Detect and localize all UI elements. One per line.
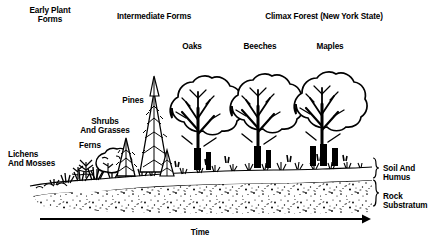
- plant-label-beeches: Beeches: [244, 42, 277, 51]
- strata-label-rock-substratum: Rock Substratum: [383, 192, 428, 210]
- strata-label-soil-and-humus: Soil And Humus: [383, 164, 415, 182]
- strata-braces: [373, 158, 379, 206]
- oak-tree: [170, 76, 243, 170]
- plant-label-oaks: Oaks: [182, 42, 202, 51]
- stage-heading-intermediate-forms: Intermediate Forms: [117, 12, 191, 21]
- plant-label-maples: Maples: [316, 42, 343, 51]
- plant-label-shrubs-and-grasses: Shrubs And Grasses: [80, 117, 129, 135]
- plant-label-lichens-and-mosses: Lichens And Mosses: [8, 150, 55, 168]
- soil-and-humus-brace: [373, 158, 379, 178]
- stage-heading-climax-forest: Climax Forest (New York State): [265, 12, 383, 21]
- plant-label-ferns: Ferns: [79, 141, 101, 150]
- beech-tree: [230, 74, 303, 168]
- plant-label-pines: Pines: [122, 96, 143, 105]
- time-axis-label: Time: [191, 228, 210, 237]
- time-arrow: [40, 215, 371, 224]
- diagram-artwork: [0, 0, 433, 249]
- stage-heading-early-plant-forms: Early Plant Forms: [29, 6, 70, 24]
- rock-substratum-brace: [373, 180, 379, 206]
- maple-tree: [294, 72, 367, 166]
- succession-diagram: Early Plant Forms Intermediate Forms Cli…: [0, 0, 433, 249]
